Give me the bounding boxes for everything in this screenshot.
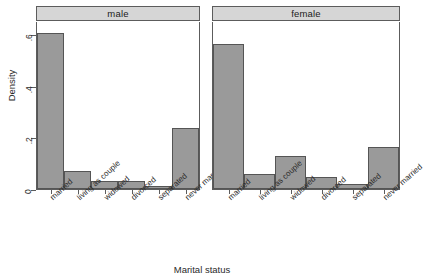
panel-strip-label-female: female: [212, 6, 400, 21]
panel-male: male marriedliving as couplewidoweddivor…: [36, 6, 200, 190]
bar-group-female: [213, 22, 399, 189]
x-axis-female: marriedliving as couplewidoweddivorcedse…: [212, 190, 400, 230]
x-axis-male: marriedliving as couplewidoweddivorcedse…: [36, 190, 200, 230]
plot-area-female: [212, 22, 400, 190]
y-tick-label: .4: [25, 86, 34, 93]
bar: [213, 44, 244, 190]
x-axis-title: Marital status: [0, 264, 404, 275]
y-tick-label: .2: [25, 138, 34, 145]
panel-female: female marriedliving as couplewidoweddiv…: [212, 6, 400, 190]
y-tick-label: .6: [25, 34, 34, 41]
panel-strip-label-male: male: [36, 6, 200, 21]
bar: [37, 33, 64, 189]
y-axis: 0.2.4.6: [0, 0, 36, 277]
y-tick-label: 0: [25, 189, 34, 194]
